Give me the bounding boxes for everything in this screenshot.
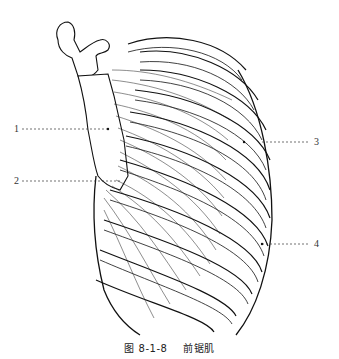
- label-1: 1: [14, 124, 19, 134]
- label-3: 3: [314, 137, 319, 147]
- figure-caption: 图 8-1-8 前锯肌: [0, 340, 339, 355]
- thorax-outline: [94, 70, 272, 335]
- label-2: 2: [14, 176, 19, 186]
- scapula: [57, 22, 128, 190]
- figure-number: 图 8-1-8: [124, 343, 167, 354]
- label-4: 4: [314, 239, 319, 249]
- figure-title: 前锯肌: [183, 343, 215, 354]
- anatomy-illustration: [0, 0, 339, 340]
